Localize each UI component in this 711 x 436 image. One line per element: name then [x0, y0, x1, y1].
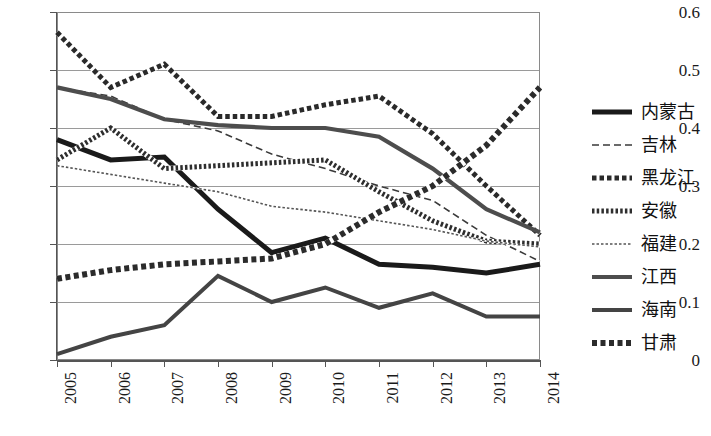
y-tick-mark [50, 360, 57, 361]
legend-item-黑龙江[interactable]: 黑龙江 [592, 161, 711, 194]
y-tick-label: 0.5 [679, 62, 700, 79]
y-tick-mark [50, 186, 57, 187]
legend-item-安徽[interactable]: 安徽 [592, 194, 711, 227]
x-tick-label: 2014 [546, 372, 562, 404]
y-tick-mark [50, 244, 57, 245]
legend-item-label: 江西 [641, 268, 677, 286]
x-axis: 2005200620072008200920102011201220132014 [57, 360, 540, 436]
x-tick-label: 2007 [170, 372, 186, 404]
legend-item-label: 内蒙古 [641, 103, 695, 121]
x-tick-label: 2005 [63, 372, 79, 404]
chart-container: 00.10.20.30.40.50.6 20052006200720082009… [0, 0, 711, 436]
legend-swatch-icon [592, 138, 632, 152]
x-tick-label: 2009 [278, 372, 294, 404]
x-tick-mark [272, 360, 273, 367]
y-axis [0, 0, 57, 372]
x-tick-mark [433, 360, 434, 367]
chart-legend: 内蒙古吉林黑龙江安徽福建江西海南甘肃 [592, 95, 711, 359]
y-tick-label: 0.6 [679, 4, 700, 21]
legend-swatch-icon [592, 105, 632, 119]
legend-swatch-icon [592, 204, 632, 218]
x-tick-mark [218, 360, 219, 367]
series-line-halo-安徽 [57, 128, 540, 244]
legend-swatch-icon [592, 270, 632, 284]
legend-item-甘肃[interactable]: 甘肃 [592, 326, 711, 359]
legend-swatch-icon [592, 171, 632, 185]
x-tick-mark [540, 360, 541, 367]
legend-item-内蒙古[interactable]: 内蒙古 [592, 95, 711, 128]
x-tick-mark [325, 360, 326, 367]
legend-swatch-icon [592, 336, 632, 350]
series-line-海南 [57, 276, 540, 354]
legend-item-吉林[interactable]: 吉林 [592, 128, 711, 161]
series-line-安徽 [57, 128, 540, 244]
series-line-halo-黑龙江 [57, 32, 540, 235]
legend-item-海南[interactable]: 海南 [592, 293, 711, 326]
x-tick-mark [379, 360, 380, 367]
legend-item-label: 安徽 [641, 202, 677, 220]
series-lines [57, 12, 540, 360]
y-tick-mark [50, 70, 57, 71]
x-tick-label: 2006 [117, 372, 133, 404]
x-tick-label: 2010 [331, 372, 347, 404]
x-tick-label: 2008 [224, 372, 240, 404]
legend-item-江西[interactable]: 江西 [592, 260, 711, 293]
legend-item-label: 海南 [641, 301, 677, 319]
x-tick-mark [111, 360, 112, 367]
x-tick-label: 2012 [439, 372, 455, 404]
y-tick-mark [50, 12, 57, 13]
x-tick-mark [57, 360, 58, 367]
legend-item-label: 黑龙江 [641, 169, 695, 187]
x-tick-mark [486, 360, 487, 367]
x-axis-line [57, 360, 540, 362]
legend-item-label: 甘肃 [641, 334, 677, 352]
x-tick-label: 2013 [492, 372, 508, 404]
legend-item-label: 福建 [641, 235, 677, 253]
series-line-黑龙江 [57, 32, 540, 235]
y-tick-mark [50, 128, 57, 129]
legend-swatch-icon [592, 303, 632, 317]
legend-item-福建[interactable]: 福建 [592, 227, 711, 260]
legend-swatch-icon [592, 237, 632, 251]
series-line-halo-甘肃 [57, 87, 540, 278]
y-tick-mark [50, 302, 57, 303]
plot-area [57, 12, 540, 360]
x-tick-label: 2011 [385, 372, 401, 403]
x-tick-mark [164, 360, 165, 367]
legend-item-label: 吉林 [641, 136, 677, 154]
